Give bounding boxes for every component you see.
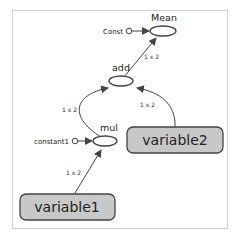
node-label-mul: mul	[100, 122, 118, 133]
edge-label-add-mean: 1 x 2	[144, 53, 159, 60]
node-variable2[interactable]: variable2	[127, 127, 223, 153]
node-add[interactable]: add	[109, 62, 133, 86]
edge-label-variable1-mul: 1 x 2	[66, 169, 81, 176]
node-label-add: add	[112, 62, 130, 73]
node-variable1[interactable]: variable1	[20, 194, 115, 220]
edge-label-variable2-add: 1 x 2	[140, 101, 155, 108]
node-constant1[interactable]: constant1	[34, 138, 78, 146]
node-mean[interactable]: Mean	[150, 12, 177, 36]
edge-variable2-to-add: 1 x 2	[137, 88, 175, 127]
node-label-variable1: variable1	[34, 199, 99, 215]
node-const[interactable]: Const	[103, 28, 132, 36]
edge-variable1-to-mul: 1 x 2	[66, 150, 101, 193]
node-label-constant1: constant1	[34, 138, 69, 146]
node-label-const: Const	[103, 28, 123, 36]
node-label-mean: Mean	[151, 12, 177, 23]
graph-canvas: 1 x 2 1 x 2 1 x 2 1 x 2 Mean Const add m…	[0, 0, 237, 239]
node-label-variable2: variable2	[142, 132, 207, 148]
edge-label-mul-add: 1 x 2	[62, 106, 77, 113]
